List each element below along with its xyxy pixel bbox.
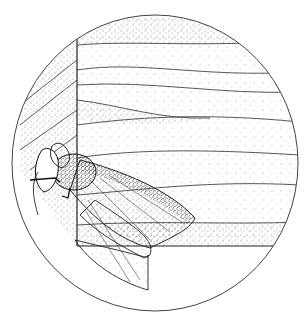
illustration: [0, 0, 306, 322]
circle-content: [20, 0, 306, 290]
moth-on-wood-drawing: [0, 0, 306, 322]
